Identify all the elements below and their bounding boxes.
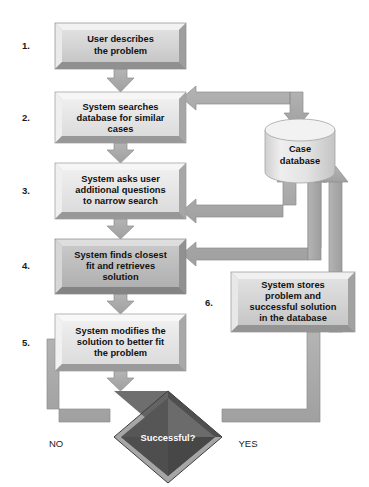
connector-step2-to-step3 — [107, 143, 134, 163]
connector-step1-to-step2 — [107, 69, 134, 92]
step-6-line-4: in the database — [259, 313, 327, 323]
step-5-line-2: solution to better fit — [77, 337, 164, 347]
step-6-line-2: problem and — [265, 291, 321, 301]
step-3-line-2: additional questions — [75, 185, 165, 195]
step-2-line-3: cases — [108, 124, 134, 134]
step-6-line-1: System stores — [261, 280, 325, 290]
step-1-number: 1. — [22, 40, 30, 51]
step-1-line-1: User describes — [87, 34, 154, 44]
step-6-number: 6. — [205, 297, 213, 308]
connector-step3-to-step4 — [107, 219, 134, 239]
step-3-number: 3. — [22, 185, 30, 196]
step-6-line-3: successful solution — [250, 302, 337, 312]
step-4-line-1: System finds closest — [74, 250, 167, 260]
step-3-line-1: System asks user — [81, 174, 160, 184]
flowchart-canvas: 1. User describes the problem 2. System … — [0, 0, 369, 487]
step-5-line-1: System modifies the — [75, 326, 165, 336]
step-5-line-3: the problem — [94, 348, 147, 358]
decision-label: Successful? — [141, 433, 196, 443]
step-1-line-2: the problem — [94, 46, 147, 56]
flowchart-svg: 1. User describes the problem 2. System … — [0, 0, 369, 487]
step-2-line-2: database for similar — [77, 113, 165, 123]
database-label-line-1: Case — [289, 144, 311, 154]
step-4-number: 4. — [22, 260, 30, 271]
connector-step4-to-step5 — [107, 294, 134, 314]
step-3-line-3: to narrow search — [83, 196, 158, 206]
branch-label-no: NO — [49, 438, 63, 449]
database-label-line-2: database — [280, 156, 320, 166]
step-5-number: 5. — [22, 337, 30, 348]
connector-yes-branch — [222, 332, 320, 422]
step-4-line-2: fit and retrieves — [86, 261, 155, 271]
connector-step5-to-decision — [107, 371, 134, 391]
step-2-number: 2. — [22, 112, 30, 123]
step-2-line-1: System searches — [83, 102, 159, 112]
step-4-line-3: solution — [102, 272, 138, 282]
branch-label-yes: YES — [238, 438, 257, 449]
